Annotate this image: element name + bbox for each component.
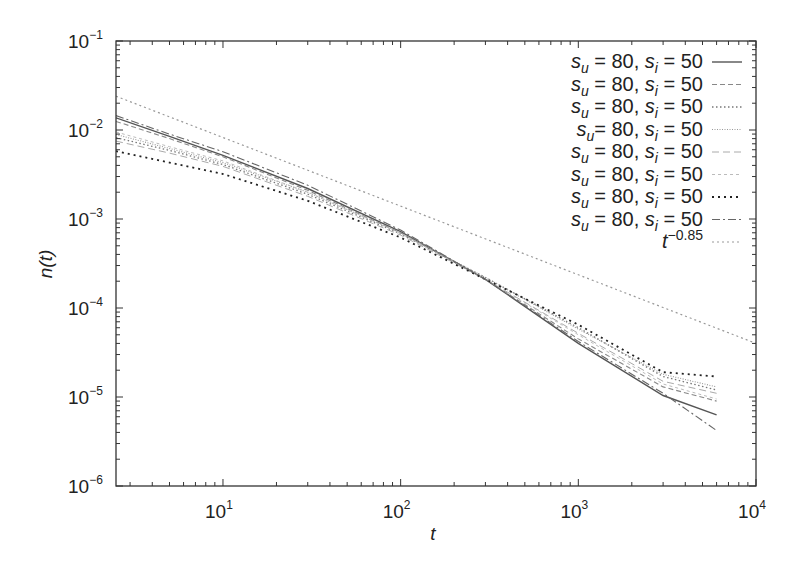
y-tick-label: 10−2 (68, 117, 103, 141)
y-tick-labels: 10−110−210−310−410−510−6 (68, 28, 103, 497)
x-tick-label: 101 (205, 498, 233, 522)
x-tick-labels: 101102103104 (205, 498, 766, 522)
y-tick-label: 10−6 (68, 473, 103, 497)
y-tick-label: 10−4 (68, 295, 103, 319)
x-tick-label: 103 (560, 498, 588, 522)
y-tick-label: 10−1 (68, 28, 103, 52)
y-tick-label: 10−5 (68, 384, 103, 408)
y-axis-title: n(t) (35, 250, 56, 279)
svg-text:t−0.85: t−0.85 (662, 227, 703, 252)
y-tick-label: 10−3 (68, 206, 103, 230)
legend-entry-reference: t−0.85 (662, 227, 742, 252)
x-axis-title: t (430, 523, 436, 544)
x-tick-label: 102 (383, 498, 411, 522)
log-log-chart: 101102103104 10−110−210−310−410−510−6 t … (0, 0, 801, 570)
legend-entry: su = 80, si = 50 (571, 208, 742, 234)
x-tick-label: 104 (738, 498, 766, 522)
legend: su = 80, si = 50su = 80, si = 50su = 80,… (571, 50, 742, 252)
